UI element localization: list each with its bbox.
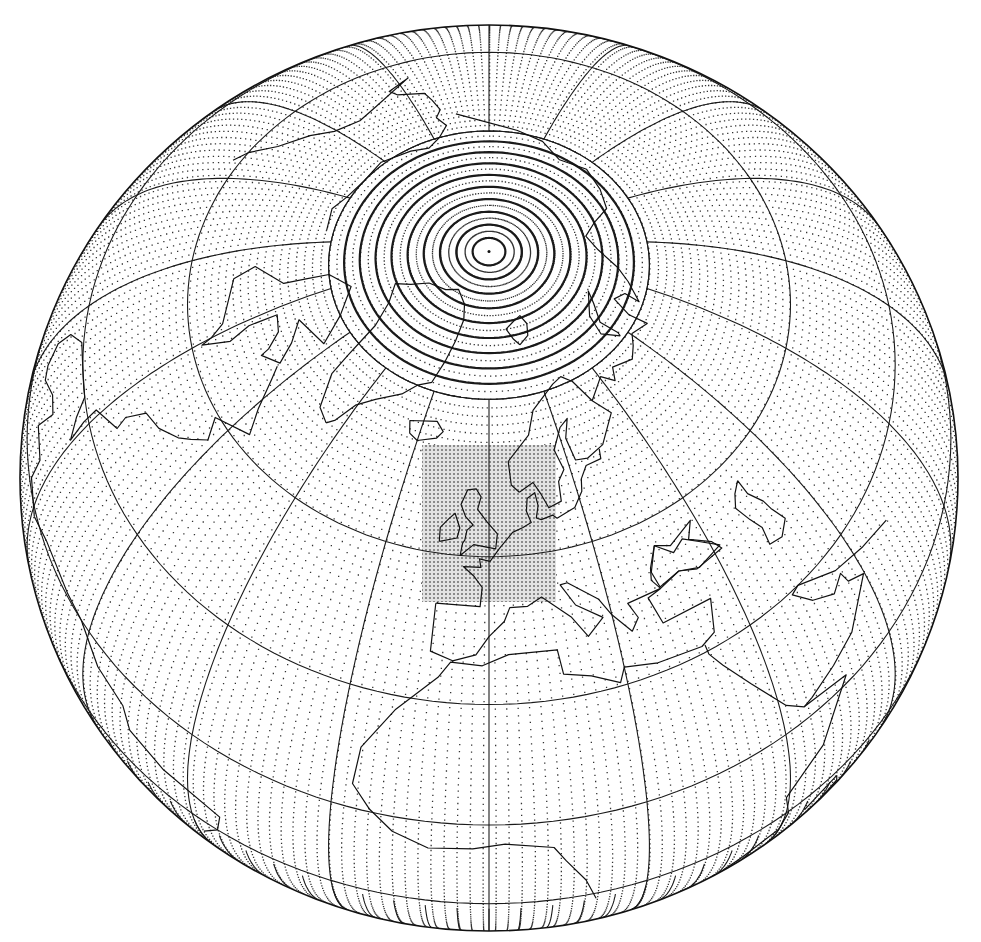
meridian--20 xyxy=(329,391,435,910)
meridian--120 xyxy=(101,178,351,224)
polar-ring-72 xyxy=(344,141,634,383)
meridian-20 xyxy=(544,391,650,910)
fine-meridian xyxy=(546,905,553,928)
north-pole-marker xyxy=(488,250,491,253)
coastline-caspian-sea xyxy=(735,481,785,545)
coastline-north-america xyxy=(32,335,278,517)
meridian--140 xyxy=(214,102,386,163)
fine-meridian xyxy=(425,905,432,928)
graticule-lines xyxy=(27,25,951,931)
meridian-140 xyxy=(592,102,764,163)
coastline-madagascar xyxy=(804,775,836,810)
polar-ring-82 xyxy=(424,199,555,308)
polar-cap-rings xyxy=(344,141,634,383)
meridian-80 xyxy=(647,289,951,566)
coastline-arctic-canada xyxy=(233,78,447,230)
coastline-red-sea-arabia xyxy=(705,520,886,707)
meridian-40 xyxy=(592,368,790,843)
orthographic-globe-map xyxy=(0,0,981,942)
polar-ring-76 xyxy=(376,163,603,353)
fine-meridian xyxy=(518,908,521,930)
meridian--80 xyxy=(27,289,331,566)
coastline-hudson-bay xyxy=(202,267,351,364)
